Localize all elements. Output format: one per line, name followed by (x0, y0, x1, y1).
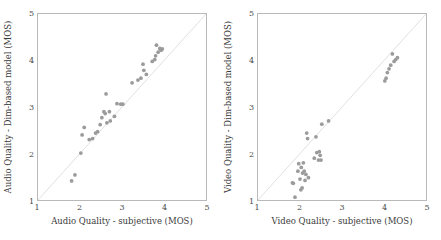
y-tick-label-4-right: 4 (246, 56, 254, 65)
data-point (305, 131, 309, 135)
data-point (387, 67, 391, 71)
data-point (113, 114, 117, 118)
data-point (96, 130, 100, 134)
data-point (82, 126, 86, 130)
data-point (389, 63, 393, 67)
data-point (303, 179, 307, 183)
data-point (327, 119, 331, 123)
x-tick-label-1-right: 1 (254, 203, 259, 212)
x-tick-label-2-right: 2 (297, 203, 302, 212)
y-tick-label-2-left: 2 (26, 150, 34, 159)
data-point (105, 121, 109, 125)
data-point (144, 73, 148, 77)
data-point (104, 92, 108, 96)
x-tick-label-5-right: 5 (424, 203, 429, 212)
data-point (385, 71, 389, 75)
y-tick-label-3-right: 3 (246, 103, 254, 112)
data-point (70, 179, 74, 183)
video-quality-panel: Video Quality - Dim-based model (MOS) 5 … (220, 0, 441, 240)
data-point (130, 81, 134, 85)
data-point (306, 137, 310, 141)
data-point (115, 102, 119, 106)
y-axis-title-video: Video Quality - Dim-based model (MOS) (220, 13, 236, 201)
data-point (293, 195, 297, 199)
x-tick-label-3-left: 3 (119, 203, 124, 212)
x-axis-title-video: Video Quality - subjective (MOS) (257, 216, 427, 226)
data-point (108, 119, 112, 123)
y-axis-title-audio: Audio Quality - Dim-based model (MOS) (0, 13, 16, 201)
data-point (139, 76, 143, 80)
data-point (301, 161, 305, 165)
y-tick-label-4-left: 4 (26, 56, 34, 65)
data-point (103, 112, 107, 116)
data-point (297, 162, 301, 166)
x-axis-title-audio: Audio Quality - subjective (MOS) (37, 216, 207, 226)
data-point (391, 52, 395, 56)
x-tick-label-1-left: 1 (34, 203, 39, 212)
x-tick-label-3-right: 3 (339, 203, 344, 212)
audio-plot-area (37, 13, 207, 201)
identity-reference-line-audio (38, 14, 206, 200)
data-point (396, 56, 400, 60)
data-point (319, 158, 323, 162)
x-tick-label-4-right: 4 (382, 203, 387, 212)
data-point (314, 135, 318, 139)
y-tick-label-1-left: 1 (26, 197, 34, 206)
data-point (73, 173, 77, 177)
data-point (384, 76, 388, 80)
audio-scatter-svg (38, 14, 206, 200)
data-point (320, 122, 324, 126)
audio-quality-panel: Audio Quality - Dim-based model (MOS) 5 … (0, 0, 220, 240)
y-axis-title-audio-label: Audio Quality - Dim-based model (MOS) (3, 21, 13, 194)
data-point (79, 151, 83, 155)
data-point (100, 116, 104, 120)
data-point (318, 153, 322, 157)
data-point (91, 137, 95, 141)
data-point (317, 150, 321, 154)
video-scatter-svg (258, 14, 426, 200)
data-point (108, 110, 112, 114)
x-tick-label-2-left: 2 (77, 203, 82, 212)
data-point (141, 62, 145, 66)
x-tick-label-4-left: 4 (162, 203, 167, 212)
data-point (142, 68, 146, 72)
y-axis-title-video-label: Video Quality - Dim-based model (MOS) (223, 21, 233, 193)
x-tick-label-5-left: 5 (204, 203, 209, 212)
data-point (87, 138, 91, 142)
data-point (160, 47, 164, 51)
y-tick-label-3-left: 3 (26, 103, 34, 112)
data-point (312, 156, 316, 160)
data-point (154, 54, 158, 58)
y-tick-label-1-right: 1 (246, 197, 254, 206)
data-point (307, 176, 311, 180)
y-tick-label-5-left: 5 (26, 9, 34, 18)
data-point (302, 169, 306, 173)
data-point (299, 166, 303, 170)
y-tick-label-5-right: 5 (246, 9, 254, 18)
data-point (153, 58, 157, 62)
data-point (291, 181, 295, 185)
data-point (155, 43, 159, 47)
data-point (300, 186, 304, 190)
y-tick-label-2-right: 2 (246, 150, 254, 159)
data-point (121, 102, 125, 106)
data-point (80, 133, 84, 137)
video-plot-area (257, 13, 427, 201)
data-point (296, 169, 300, 173)
video-data-points (291, 52, 400, 199)
identity-reference-line-video (258, 14, 426, 200)
scatter-plot-figure: Audio Quality - Dim-based model (MOS) 5 … (0, 0, 441, 240)
data-point (98, 123, 102, 127)
data-point (304, 173, 308, 177)
data-point (298, 177, 302, 181)
